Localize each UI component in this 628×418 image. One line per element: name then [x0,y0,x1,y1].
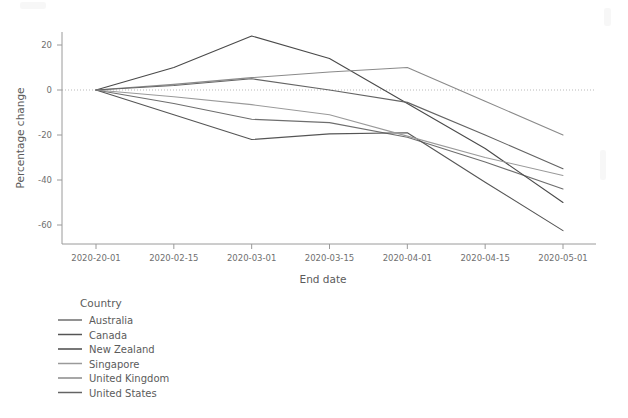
series-line-united-states [96,79,563,169]
chart-figure: 200-20-40-60 2020-20-012020-02-152020-03… [0,0,628,418]
y-axis-ticks: 200-20-40-60 [38,40,62,230]
legend-label-australia[interactable]: Australia [89,315,133,326]
x-axis-ticks: 2020-20-012020-02-152020-03-012020-03-15… [71,244,587,263]
legend-label-united-states[interactable]: United States [89,388,157,399]
series-line-canada [96,90,563,231]
x-tick-label: 2020-03-01 [227,253,276,263]
y-tick-label: 0 [47,85,52,95]
scan-artifact-top [20,2,46,9]
x-tick-label: 2020-05-01 [538,253,587,263]
legend-label-new-zealand[interactable]: New Zealand [89,344,155,355]
y-tick-label: -20 [38,130,52,140]
x-tick-label: 2020-04-15 [460,253,509,263]
y-tick-label: -40 [38,175,52,185]
x-tick-label: 2020-02-15 [149,253,198,263]
series-line-singapore [96,90,563,176]
scan-artifact-right-mid [600,150,606,180]
x-tick-label: 2020-03-15 [305,253,354,263]
legend-label-united-kingdom[interactable]: United Kingdom [89,373,169,384]
x-axis-title: End date [300,273,347,285]
x-tick-label: 2020-20-01 [71,253,120,263]
legend-label-canada[interactable]: Canada [89,330,127,341]
y-axis-title: Percentage change [14,87,26,188]
chart-svg: 200-20-40-60 2020-20-012020-02-152020-03… [0,0,628,418]
x-tick-label: 2020-04-01 [383,253,432,263]
y-tick-label: 20 [41,40,52,50]
series-line-united-kingdom [96,68,563,136]
scan-artifact-right-top [604,8,611,26]
legend-title: Country [80,297,122,309]
y-tick-label: -60 [38,220,52,230]
legend: AustraliaCanadaNew ZealandSingaporeUnite… [58,315,169,399]
legend-label-singapore[interactable]: Singapore [89,359,139,370]
series-lines [96,36,563,231]
series-line-new-zealand [96,36,563,203]
